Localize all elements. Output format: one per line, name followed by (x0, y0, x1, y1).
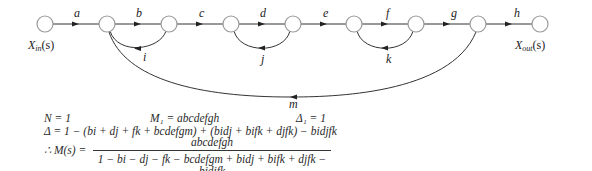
edge-k (357, 31, 413, 48)
label-h: h (514, 6, 520, 20)
fraction-bar (93, 150, 331, 151)
label-i: i (143, 50, 146, 64)
label-f: f (386, 6, 391, 20)
edge-m (109, 32, 476, 97)
eq-delta1: Δ₁ = 1 (296, 112, 326, 124)
node-1 (99, 16, 115, 32)
eq-Ms-numerator: abcdefgh (93, 136, 331, 148)
eq-M1: M₁ = abcdefgh (150, 112, 219, 124)
eq-Ms-lhs: ∴ M(s) = (44, 144, 86, 156)
output-label: Xout(s) (514, 38, 545, 53)
node-3 (223, 16, 239, 32)
node-output (532, 16, 548, 32)
node-6 (408, 16, 424, 32)
label-c: c (199, 6, 205, 20)
edge-i (110, 31, 166, 48)
label-g: g (451, 6, 457, 20)
eq-Ms-fraction: abcdefgh 1 − bi − dj − fk − bcdefgm + bi… (93, 136, 331, 165)
node-2 (161, 16, 177, 32)
label-j: j (259, 52, 265, 66)
label-d: d (260, 6, 267, 20)
eq-N: N = 1 (44, 112, 71, 124)
label-e: e (323, 6, 329, 20)
label-a: a (74, 6, 80, 20)
node-4 (285, 16, 301, 32)
nodes (37, 16, 548, 32)
label-m: m (289, 97, 298, 110)
label-k: k (386, 52, 392, 66)
node-7 (470, 16, 486, 32)
eq-Ms-denominator: 1 − bi − dj − fk − bcdefgm + bidj + bifk… (93, 153, 331, 165)
node-input (37, 16, 53, 32)
signal-flow-graph: a b c d e f g h i j k m Xin(s) Xout(s) (0, 0, 592, 110)
feedback-edges (109, 31, 476, 97)
edge-j (234, 31, 290, 48)
label-b: b (136, 6, 142, 20)
input-label: Xin(s) (27, 38, 54, 53)
node-5 (346, 16, 362, 32)
